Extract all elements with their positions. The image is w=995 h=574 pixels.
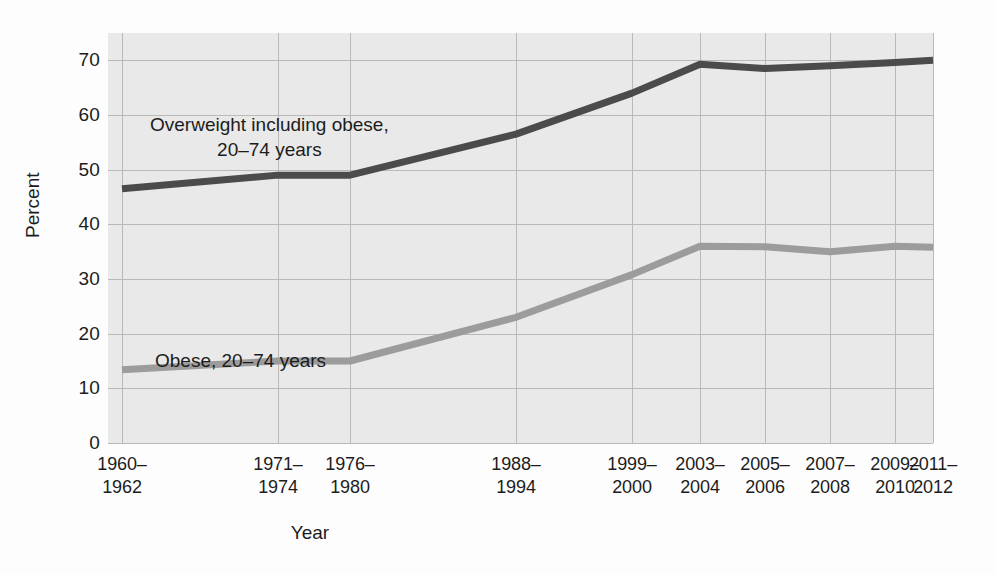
x-axis-tick-labels: 1960– 19621971– 19741976– 19801988– 1994…	[0, 453, 995, 513]
y-tick-label: 70	[40, 49, 100, 71]
gridline-h-30	[108, 279, 933, 280]
x-tick-label: 1976– 1980	[325, 453, 375, 499]
y-axis-tick-labels: 010203040506070	[30, 33, 100, 443]
gridline-v-1	[278, 33, 279, 443]
x-tick-label: 1960– 1962	[97, 453, 147, 499]
y-tick-label: 0	[40, 432, 100, 454]
gridline-v-5	[700, 33, 701, 443]
gridline-v-8	[895, 33, 896, 443]
annotation-obese: Obese, 20–74 years	[155, 348, 326, 373]
gridline-v-2	[350, 33, 351, 443]
x-tick-label: 1971– 1974	[253, 453, 303, 499]
gridline-v-3	[516, 33, 517, 443]
y-tick-label: 50	[40, 159, 100, 181]
y-tick-label: 40	[40, 213, 100, 235]
plot-area	[108, 33, 933, 443]
x-tick-label: 2003– 2004	[675, 453, 725, 499]
x-tick-label: 2007– 2008	[805, 453, 855, 499]
x-tick-label: 1988– 1994	[491, 453, 541, 499]
gridline-v-7	[830, 33, 831, 443]
gridline-v-4	[632, 33, 633, 443]
y-tick-label: 60	[40, 104, 100, 126]
x-axis-title: Year	[0, 522, 620, 544]
gridline-h-40	[108, 224, 933, 225]
y-tick-label: 20	[40, 323, 100, 345]
x-tick-label: 1999– 2000	[607, 453, 657, 499]
gridline-h-50	[108, 170, 933, 171]
y-tick-label: 30	[40, 268, 100, 290]
gridline-v-0	[122, 33, 123, 443]
gridline-h-0	[108, 443, 933, 444]
x-tick-label: 2005– 2006	[740, 453, 790, 499]
y-tick-label: 10	[40, 377, 100, 399]
gridline-v-6	[765, 33, 766, 443]
gridline-h-10	[108, 388, 933, 389]
gridline-v-9	[933, 33, 934, 443]
gridline-h-20	[108, 334, 933, 335]
gridline-h-70	[108, 60, 933, 61]
x-tick-label: 2011– 2012	[909, 453, 957, 499]
annotation-overweight-including-obese: Overweight including obese, 20–74 years	[150, 112, 389, 162]
y-axis-title: Percent	[22, 173, 44, 238]
chart-figure: 010203040506070 1960– 19621971– 19741976…	[0, 0, 995, 574]
